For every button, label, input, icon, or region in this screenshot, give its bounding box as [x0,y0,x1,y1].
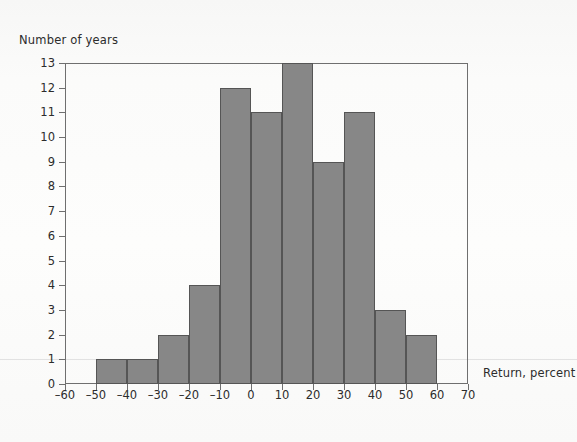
histogram-bar [127,359,158,384]
y-axis-tick-label: 4 [48,278,55,292]
y-axis-tick [59,137,66,138]
x-axis-tick-label: –50 [86,388,106,402]
y-axis-tick [59,359,66,360]
plot-area [65,63,468,384]
histogram-bar [375,310,406,384]
x-axis-tick-label: 50 [399,388,414,402]
y-axis-tick [59,211,66,212]
y-axis-tick-label: 2 [48,328,55,342]
x-axis-tick-label: –10 [210,388,230,402]
histogram-bar [282,63,313,384]
histogram-bar [96,359,127,384]
x-axis-tick-label: 30 [337,388,352,402]
y-axis-tick [59,162,66,163]
y-axis-tick-label: 1 [48,352,55,366]
x-axis-tick-label: 0 [247,388,254,402]
histogram-bar [344,112,375,384]
y-axis-tick [59,310,66,311]
y-axis-title: Number of years [19,33,118,47]
histogram-bar [251,112,282,384]
x-axis-tick-label: 10 [275,388,290,402]
x-axis-tick-label: –30 [148,388,168,402]
y-axis-tick-label: 6 [48,229,55,243]
x-axis-tick-label: –20 [179,388,199,402]
x-axis-title: Return, percent [483,366,576,380]
y-axis-tick [59,186,66,187]
y-axis-tick [59,335,66,336]
histogram-bar [406,335,437,384]
y-axis-tick-label: 12 [40,81,55,95]
y-axis-tick-label: 5 [48,254,55,268]
histogram-bar [158,335,189,384]
y-axis-tick-label: 8 [48,179,55,193]
y-axis-tick-label: 3 [48,303,55,317]
x-axis-tick-label: 20 [306,388,321,402]
figure-page: Number of years 012345678910111213–60–50… [0,0,577,442]
y-axis-tick-label: 9 [48,155,55,169]
y-axis-tick [59,261,66,262]
x-axis-tick-label: 60 [430,388,445,402]
y-axis-tick [59,63,66,64]
y-axis-tick-label: 13 [40,56,55,70]
y-axis-tick [59,88,66,89]
y-axis-tick-label: 11 [40,105,55,119]
x-axis-tick-label: 70 [461,388,476,402]
x-axis-tick-label: 40 [368,388,383,402]
y-axis-tick-label: 10 [40,130,55,144]
y-axis-tick-label: 7 [48,204,55,218]
y-axis-tick [59,112,66,113]
histogram-bar [220,88,251,384]
histogram-bar [189,285,220,384]
histogram-bar [313,162,344,384]
y-axis-tick [59,285,66,286]
x-axis-tick-label: –40 [117,388,137,402]
x-axis-tick-label: –60 [55,388,75,402]
y-axis-tick [59,236,66,237]
